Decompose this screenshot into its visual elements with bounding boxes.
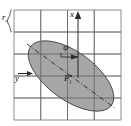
label-x-axis: x [70,10,74,19]
ellipse-region [14,10,126,125]
y-axis-arrowhead [27,71,33,76]
label-psi-angle: ψ [63,43,69,52]
label-point-pi-subscript: i [70,79,72,85]
label-y-axis: y [15,74,19,83]
label-r: r [2,13,6,22]
r-brace [7,10,12,32]
label-point-pi: Pi [64,74,71,85]
x-axis-arrowhead [75,11,81,19]
y-axis [18,71,33,76]
diagram-canvas [0,0,131,126]
tilted-ellipse-diagram: r x y ψ Pi [0,0,131,126]
